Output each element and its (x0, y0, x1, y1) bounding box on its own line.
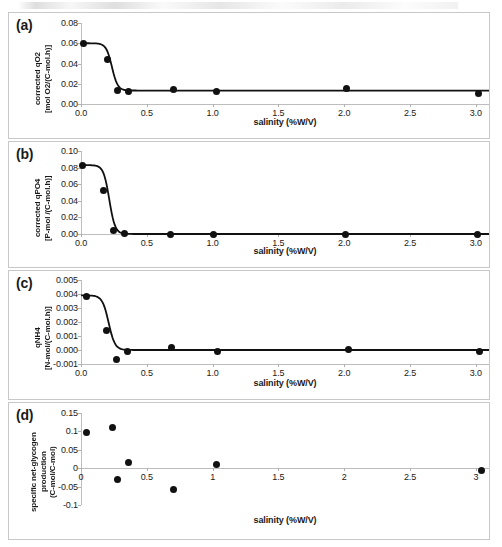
y-tick-mark (78, 64, 81, 65)
data-point (345, 346, 352, 353)
panel-d: (d) specific net-glycogen production (C-… (8, 402, 490, 540)
panel-c: (c) qNH4 [N-mol/(C-mol.h)] -0.0010.0000.… (8, 270, 490, 400)
y-tick-mark (78, 336, 81, 337)
y-tick-labels: 0.000.020.040.060.080.10 (38, 151, 78, 234)
x-tick-mark (344, 104, 345, 107)
x-tick-label: 2.5 (404, 368, 416, 378)
x-tick-mark (476, 468, 477, 471)
panel-a: (a) corrected qO2 [mol O2/(C-mol.h)] 0.0… (8, 12, 490, 139)
panel-a-tag: (a) (16, 17, 33, 33)
x-tick-mark (147, 468, 148, 471)
data-point (80, 40, 87, 47)
data-point (113, 356, 120, 363)
x-tick-label: 1.5 (272, 368, 284, 378)
x-tick-label: 2.5 (404, 472, 416, 482)
x-tick-label: 0 (79, 472, 84, 482)
y-tick-mark (78, 350, 81, 351)
x-tick-label: 1.0 (207, 238, 219, 248)
x-tick-mark (81, 104, 82, 107)
data-point (474, 231, 481, 238)
x-tick-label: 0.0 (75, 368, 87, 378)
data-point (83, 429, 90, 436)
y-tick-label: 0.1 (66, 426, 78, 436)
y-tick-mark (78, 294, 81, 295)
x-tick-label: 2.0 (338, 238, 350, 248)
x-tick-mark (213, 104, 214, 107)
x-tick-label: 3.0 (470, 238, 482, 248)
y-tick-mark (78, 23, 81, 24)
x-tick-mark (410, 364, 411, 367)
x-tick-label: 1 (210, 472, 215, 482)
x-tick-mark (147, 104, 148, 107)
panel-c-tag: (c) (16, 275, 33, 291)
x-tick-mark (278, 364, 279, 367)
x-axis-line (81, 468, 489, 469)
y-tick-mark (78, 217, 81, 218)
x-tick-label: 0.0 (75, 108, 87, 118)
x-tick-label: 3.0 (470, 108, 482, 118)
x-tick-mark (410, 104, 411, 107)
data-point (170, 86, 177, 93)
data-point (476, 348, 483, 355)
x-tick-label: 3 (473, 472, 478, 482)
x-tick-label: 2.0 (338, 108, 350, 118)
data-point (114, 87, 121, 94)
data-point (125, 88, 132, 95)
y-tick-label: -0.1 (63, 500, 78, 510)
data-point (124, 348, 131, 355)
data-point (109, 424, 116, 431)
scan-artifact-smudge (18, 2, 458, 9)
panel-b: (b) corrected qPO4 [P-mol /(C-mol.h)] 0.… (8, 141, 490, 268)
data-point (110, 227, 117, 234)
x-tick-label: 0.5 (141, 238, 153, 248)
y-tick-mark (78, 505, 81, 506)
data-point (214, 348, 221, 355)
data-point (79, 162, 86, 169)
y-tick-label: 0.08 (61, 163, 78, 173)
x-tick-label: 2.0 (338, 368, 350, 378)
y-tick-label: 0.005 (56, 275, 78, 285)
x-tick-label: 0.5 (141, 368, 153, 378)
data-point (114, 476, 121, 483)
y-tick-labels: 0.000.020.040.060.08 (38, 23, 78, 104)
x-tick-label: 1.5 (272, 472, 284, 482)
y-axis-line (81, 413, 82, 505)
x-tick-label: 1.0 (207, 368, 219, 378)
data-point (125, 459, 132, 466)
panel-d-plot-area: -0.1-0.0500.050.10.1500.511.522.53salini… (81, 413, 489, 505)
x-axis-label: salinity (%W/V) (253, 515, 316, 525)
x-tick-mark (344, 364, 345, 367)
fitted-curve (81, 280, 489, 364)
y-tick-label: 0.02 (61, 212, 78, 222)
x-tick-mark (278, 104, 279, 107)
x-tick-mark (476, 104, 477, 107)
x-tick-mark (147, 234, 148, 237)
data-point (213, 88, 220, 95)
x-axis-label: salinity (%W/V) (253, 117, 316, 127)
y-tick-label: 0.001 (56, 331, 78, 341)
x-tick-mark (81, 364, 82, 367)
y-tick-mark (78, 450, 81, 451)
x-tick-label: 0.5 (141, 108, 153, 118)
y-tick-mark (78, 151, 81, 152)
y-tick-label: 0.002 (56, 317, 78, 327)
x-tick-mark (476, 364, 477, 367)
x-axis-label: salinity (%W/V) (253, 378, 316, 388)
panel-c-plot-area: -0.0010.0000.0010.0020.0030.0040.0050.00… (81, 280, 489, 364)
data-point (343, 85, 350, 92)
y-tick-mark (78, 280, 81, 281)
x-axis-line (81, 234, 489, 235)
data-point (121, 230, 128, 237)
y-tick-mark (78, 84, 81, 85)
y-tick-mark (78, 201, 81, 202)
x-tick-mark (278, 468, 279, 471)
fitted-curve (81, 23, 489, 104)
fitted-curve (81, 151, 489, 234)
y-tick-mark (78, 322, 81, 323)
y-tick-label: 0.004 (56, 289, 78, 299)
y-tick-mark (78, 413, 81, 414)
y-tick-label: 0.003 (56, 303, 78, 313)
x-tick-mark (147, 364, 148, 367)
y-axis-line (81, 23, 82, 104)
y-tick-label: 0.15 (61, 408, 78, 418)
